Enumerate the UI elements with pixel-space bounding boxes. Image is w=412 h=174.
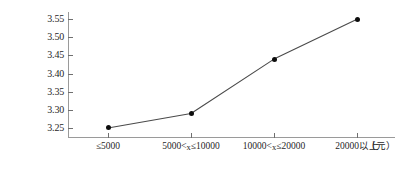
series-line	[0, 0, 412, 174]
line-chart: 3.253.303.353.403.453.503.55 ≤50005000<x…	[0, 0, 412, 174]
data-point	[189, 111, 194, 116]
data-point	[355, 17, 360, 22]
data-point	[272, 57, 277, 62]
x-axis-unit-label: （元）	[366, 141, 396, 152]
